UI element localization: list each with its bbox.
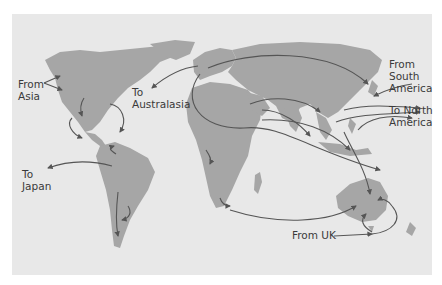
landmasses [45,40,416,248]
label-to-australasia: To Australasia [132,86,190,110]
label-to-japan: To Japan [22,168,51,192]
philippines [348,118,356,134]
australia [336,178,388,222]
new-zealand [406,222,416,236]
central-america [85,132,106,146]
indonesia [318,142,372,156]
south-america [96,142,155,248]
label-from-uk: From UK [292,229,336,241]
madagascar [254,172,262,194]
label-from-asia: From Asia [18,78,44,102]
label-to-north-america: To North America [389,104,433,128]
japan [368,80,378,96]
world-map [0,0,442,285]
label-from-south-america: From South America [389,58,432,94]
